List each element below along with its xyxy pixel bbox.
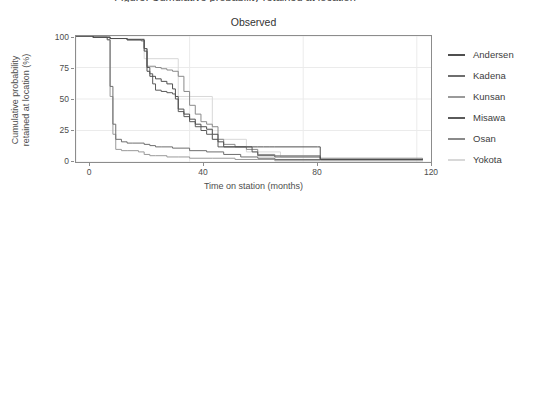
y-axis-label-top-line1: Cumulative probability <box>10 35 21 165</box>
y-axis-label-top: Cumulative probability retained at locat… <box>10 35 32 165</box>
legend-item-misawa[interactable]: Misawa <box>448 107 514 128</box>
legend-key-icon <box>448 159 465 161</box>
legend-item-label: Andersen <box>473 49 514 60</box>
x-tick-label-top-0: 0 <box>74 167 104 177</box>
legend-key-icon <box>448 117 465 119</box>
x-axis-label-top: Time on station (months) <box>75 181 432 191</box>
x-tick-label-top-120: 120 <box>416 167 446 177</box>
legend-item-andersen[interactable]: Andersen <box>448 44 514 65</box>
x-tick-mark-top-80 <box>317 163 318 166</box>
legend-key-icon <box>448 75 465 77</box>
x-tick-mark-top-40 <box>203 163 204 166</box>
legend-key-icon <box>448 54 465 56</box>
x-tick-label-top-40: 40 <box>188 167 218 177</box>
series-line-kunsan <box>76 36 422 161</box>
y-tick-label-top-0: 0 <box>47 156 69 166</box>
plot-panel-observed <box>75 35 432 163</box>
y-tick-label-top-100: 100 <box>47 32 69 42</box>
x-tick-mark-top-0 <box>89 163 90 166</box>
plot-area-observed <box>76 36 431 162</box>
y-tick-mark-top-100 <box>71 37 74 38</box>
series-line-misawa <box>76 36 422 159</box>
legend-item-kadena[interactable]: Kadena <box>448 65 514 86</box>
x-tick-mark-top-120 <box>431 163 432 166</box>
series-line-kadena <box>76 36 422 159</box>
series-line-osan <box>76 36 422 159</box>
legend-item-label: Kadena <box>473 70 506 81</box>
y-tick-label-top-75: 75 <box>47 63 69 73</box>
panel-title-observed: Observed <box>75 16 432 28</box>
legend-item-label: Yokota <box>473 154 502 165</box>
y-axis-label-top-line2: retained at location (%) <box>21 35 32 165</box>
legend-key-icon <box>448 96 465 98</box>
y-tick-label-top-50: 50 <box>47 94 69 104</box>
figure-panel-modeled: Cumulative probability retained at locat… <box>0 200 548 393</box>
y-tick-label-top-25: 25 <box>47 125 69 135</box>
legend-item-label: Osan <box>473 133 496 144</box>
legend-item-osan[interactable]: Osan <box>448 128 514 149</box>
legend-item-label: Misawa <box>473 112 505 123</box>
series-line-yokota <box>76 36 422 161</box>
legend-observed: AndersenKadenaKunsanMisawaOsanYokota <box>448 44 514 170</box>
y-tick-mark-top-0 <box>71 161 74 162</box>
legend-key-icon <box>448 138 465 140</box>
y-tick-mark-top-50 <box>71 99 74 100</box>
figure-panel-observed: Observed Cumulative probability retained… <box>0 0 548 200</box>
y-tick-mark-top-75 <box>71 68 74 69</box>
legend-item-label: Kunsan <box>473 91 505 102</box>
y-tick-mark-top-25 <box>71 130 74 131</box>
legend-item-yokota[interactable]: Yokota <box>448 149 514 170</box>
legend-item-kunsan[interactable]: Kunsan <box>448 86 514 107</box>
x-tick-label-top-80: 80 <box>302 167 332 177</box>
series-line-andersen <box>76 36 422 159</box>
